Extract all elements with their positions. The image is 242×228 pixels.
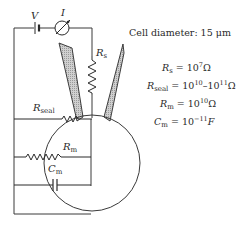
value-base: = 10 <box>168 80 194 91</box>
value-unit: F <box>208 116 215 127</box>
value-exponent: 10 <box>194 79 202 87</box>
membrane-capacitance-subscript: m <box>56 168 63 176</box>
current-label: I <box>61 8 65 18</box>
value-range-exponent: 11 <box>220 79 228 87</box>
series-resistance-symbol: R <box>96 47 104 58</box>
pipette-left-icon <box>59 43 83 121</box>
value-base: = 10 <box>173 62 199 73</box>
value-subscript: m <box>161 121 168 129</box>
membrane-resistor-branch <box>14 154 91 160</box>
series-resistance-value: Rs = 107Ω <box>162 62 211 75</box>
membrane-resistance-label: Rm <box>63 142 77 154</box>
membrane-capacitance-value: Cm = 10−11F <box>154 116 214 129</box>
cell-body-icon <box>44 115 140 211</box>
value-unit: Ω <box>208 98 216 109</box>
value-exponent: 10 <box>200 97 208 105</box>
value-unit: Ω <box>228 80 236 91</box>
seal-resistance-value: Rseal = 1010–1011Ω <box>147 80 236 93</box>
value-base: = 10 <box>168 116 194 127</box>
value-base: = 10 <box>174 98 200 109</box>
seal-resistance-subscript: seal <box>41 107 55 115</box>
membrane-resistance-symbol: R <box>63 141 71 152</box>
value-range-base: –10 <box>203 80 220 91</box>
membrane-resistance-value: Rm = 1010Ω <box>160 98 216 111</box>
voltage-label: V <box>31 11 38 21</box>
value-subscript: seal <box>154 85 168 93</box>
value-subscript: m <box>167 103 174 111</box>
ammeter-icon <box>55 20 70 35</box>
series-resistor-icon <box>88 56 96 95</box>
battery-icon <box>35 22 39 34</box>
membrane-capacitance-symbol: C <box>48 163 56 174</box>
series-resistance-label: Rs <box>96 48 107 60</box>
value-unit: Ω <box>203 62 211 73</box>
seal-resistance-symbol: R <box>33 102 41 113</box>
membrane-capacitor-branch <box>14 179 91 191</box>
series-resistance-subscript: s <box>104 52 108 60</box>
cell-diameter-caption: Cell diameter: 15 μm <box>129 28 231 38</box>
value-exponent: −11 <box>194 115 208 123</box>
seal-resistance-label: Rseal <box>33 103 55 115</box>
membrane-capacitance-label: Cm <box>48 164 62 176</box>
membrane-resistance-subscript: m <box>71 146 78 154</box>
